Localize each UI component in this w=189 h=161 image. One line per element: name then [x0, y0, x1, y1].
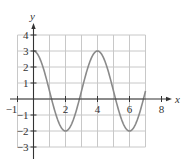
y-tick-label: 1	[23, 77, 29, 89]
y-tick-label: −1	[17, 109, 29, 121]
axes	[10, 23, 172, 159]
y-axis-arrow-icon	[31, 23, 35, 29]
tick-labels: −124684321−1−2−3	[6, 29, 165, 153]
x-tick-label: 6	[127, 103, 133, 115]
x-axis-arrow-icon	[166, 97, 172, 101]
x-tick-label: −1	[6, 103, 18, 115]
x-tick-label: 8	[159, 103, 165, 115]
y-tick-label: 4	[23, 29, 29, 41]
x-tick-label: 2	[63, 103, 69, 115]
y-tick-label: 2	[23, 61, 29, 73]
cosine-curve	[34, 51, 146, 131]
y-axis-label: y	[29, 10, 35, 22]
y-tick-label: −3	[17, 141, 29, 153]
y-tick-label: 3	[23, 45, 29, 57]
cosine-graph: −124684321−1−2−3 x y	[0, 0, 189, 161]
y-tick-label: −2	[17, 125, 29, 137]
x-tick-label: 4	[95, 103, 101, 115]
curve-series	[34, 51, 146, 131]
x-axis-label: x	[174, 93, 180, 105]
